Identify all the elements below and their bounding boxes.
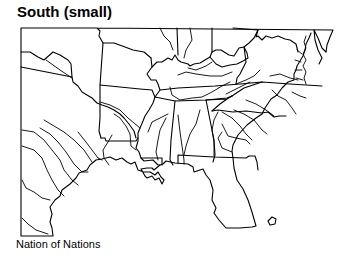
texas-river-5	[22, 180, 50, 200]
arkansas-river	[46, 60, 140, 128]
tombigbee-river	[178, 115, 184, 164]
arkansas-louisiana-border	[101, 138, 138, 141]
texas-river-1	[22, 146, 64, 196]
georgia-river-3	[218, 132, 232, 152]
texas-river-3	[40, 128, 88, 172]
illinois-river	[160, 28, 173, 50]
tennessee-river	[170, 82, 230, 100]
maryland-border	[256, 30, 326, 64]
virginia-river-2	[236, 70, 260, 84]
south-outline-map	[0, 0, 349, 257]
mississippi-alabama-border	[170, 101, 175, 165]
alabama-river	[184, 110, 200, 155]
trinity-river	[78, 132, 102, 160]
pearl-river	[156, 118, 166, 160]
missouri-arkansas-border	[100, 85, 155, 97]
sabine-river	[103, 135, 112, 165]
nc-river-2	[292, 92, 306, 98]
yazoo-river	[148, 114, 168, 132]
oklahoma-arkansas-border	[99, 43, 103, 138]
texas-river-6	[22, 218, 48, 234]
wabash-river	[184, 28, 192, 58]
north-south-carolina-border	[212, 110, 286, 117]
lake-okeechobee	[268, 217, 276, 225]
map-caption: Nation of Nations	[16, 238, 100, 250]
nc-river-1	[272, 90, 296, 114]
illinois-indiana-border	[177, 28, 178, 55]
tennessee-south-border	[155, 96, 232, 101]
texas-oklahoma-border	[21, 67, 136, 138]
ohio-river	[152, 47, 244, 67]
cumberland-river	[178, 72, 232, 76]
florida-north-border	[178, 155, 258, 170]
